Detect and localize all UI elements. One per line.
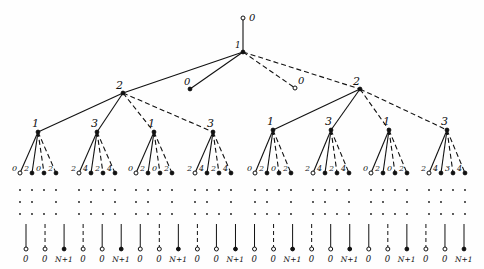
ellipsis-dot <box>348 189 350 191</box>
ellipsis-dot <box>440 201 442 203</box>
dashed-edge <box>360 89 447 130</box>
ellipsis-dot <box>230 201 232 203</box>
bottom-node <box>176 247 180 251</box>
solid-edge <box>331 89 360 130</box>
level2-label: 2 <box>115 79 123 92</box>
leaf-node <box>265 171 269 175</box>
terminal-label: 0 <box>184 76 191 87</box>
leaf-node <box>311 171 315 175</box>
bottom-label: 0 <box>309 254 315 264</box>
bottom-node <box>272 247 276 251</box>
leaf-node <box>289 171 293 175</box>
leaf-label: 2 <box>139 164 145 173</box>
ellipsis-dot <box>452 189 454 191</box>
bottom-label: 0 <box>80 254 86 264</box>
level3-node <box>95 130 99 134</box>
bottom-node <box>310 247 314 251</box>
level3-label: 1 <box>267 115 274 128</box>
bottom-node <box>367 247 371 251</box>
ellipsis-dot <box>464 189 466 191</box>
bottom-label: N+1 <box>454 255 473 264</box>
leaf-label: 4 <box>432 164 438 173</box>
leaf-node <box>405 171 409 175</box>
bottom-label: 0 <box>137 254 143 264</box>
ellipsis-dot <box>102 189 104 191</box>
leaf-node <box>347 171 351 175</box>
ellipsis-dot <box>90 213 92 215</box>
leaf-label: 0 <box>247 164 252 173</box>
ellipsis-dot <box>290 189 292 191</box>
bottom-node <box>195 247 199 251</box>
bottom-node <box>234 247 238 251</box>
root-node <box>241 16 245 20</box>
ellipsis-dot <box>218 213 220 215</box>
ellipsis-dot <box>312 189 314 191</box>
ellipsis-dot <box>19 201 21 203</box>
ellipsis-dot <box>324 213 326 215</box>
leaf-node <box>54 171 58 175</box>
bottom-label: 0 <box>271 254 277 264</box>
leaf-node <box>323 171 327 175</box>
leaf-node <box>381 171 385 175</box>
leaf-label: 0 <box>387 164 392 173</box>
ellipsis-dot <box>102 213 104 215</box>
ellipsis-dot <box>230 189 232 191</box>
leaf-label: 2 <box>70 164 76 173</box>
ellipsis-dot <box>55 189 57 191</box>
dashed-edge <box>243 52 295 88</box>
ellipsis-dot <box>114 189 116 191</box>
level3-label: 3 <box>207 117 214 130</box>
ellipsis-dot <box>266 213 268 215</box>
leaf-label: 2 <box>163 164 169 173</box>
terminal-node <box>293 86 297 90</box>
ellipsis-dot <box>336 213 338 215</box>
solid-edge <box>190 52 243 89</box>
ellipsis-dot <box>171 213 173 215</box>
bottom-node <box>119 247 123 251</box>
ellipsis-dot <box>370 201 372 203</box>
bottom-node <box>100 247 104 251</box>
ellipsis-dot <box>147 189 149 191</box>
bottom-label: N+1 <box>54 255 73 264</box>
ellipsis-dot <box>159 213 161 215</box>
level3-label: 1 <box>32 117 39 130</box>
leaf-node <box>369 171 373 175</box>
leaf-label: 2 <box>47 164 53 173</box>
leaf-node <box>170 171 174 175</box>
leaf-node <box>18 171 22 175</box>
bottom-label: N+1 <box>283 255 302 264</box>
ellipsis-dot <box>266 189 268 191</box>
root-label: 0 <box>249 12 256 23</box>
tree-diagram: 0001220202124243020212424302021242430202… <box>0 0 484 269</box>
ellipsis-dot <box>159 189 161 191</box>
level2-label: 2 <box>352 75 360 88</box>
bottom-label: 0 <box>385 254 391 264</box>
terminal-label: 0 <box>298 75 305 86</box>
level3-node <box>36 130 40 134</box>
bottom-node <box>138 247 142 251</box>
leaf-label: 4 <box>340 164 346 173</box>
ellipsis-dot <box>336 189 338 191</box>
leaf-label: 0 <box>271 164 276 173</box>
ellipsis-dot <box>43 213 45 215</box>
bottom-label: 0 <box>194 254 200 264</box>
ellipsis-dot <box>55 201 57 203</box>
ellipsis-dot <box>31 213 33 215</box>
ellipsis-dot <box>206 213 208 215</box>
ellipsis-dot <box>428 201 430 203</box>
bottom-node <box>81 247 85 251</box>
leaf-node <box>113 171 117 175</box>
ellipsis-dot <box>90 189 92 191</box>
ellipsis-dot <box>194 201 196 203</box>
ellipsis-dot <box>324 201 326 203</box>
leaf-node <box>439 171 443 175</box>
ellipsis-dot <box>406 201 408 203</box>
ellipsis-dot <box>114 213 116 215</box>
level3-label: 1 <box>148 117 155 130</box>
bottom-node <box>348 247 352 251</box>
leaf-label: 2 <box>94 164 100 173</box>
leaf-node <box>277 171 281 175</box>
leaf-node <box>217 171 221 175</box>
ellipsis-dot <box>394 213 396 215</box>
ellipsis-dot <box>78 201 80 203</box>
